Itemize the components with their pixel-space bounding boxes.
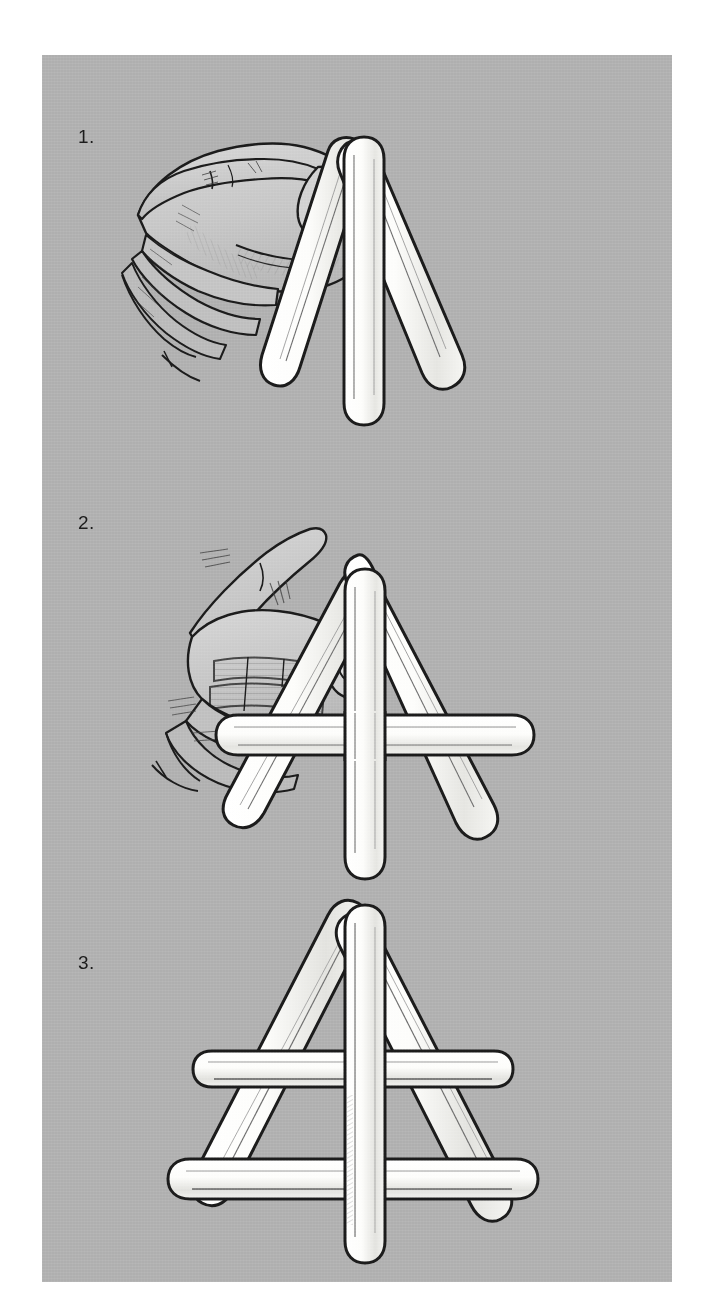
panel-step-1: 1.: [42, 55, 672, 465]
panel-2-artwork: [42, 465, 672, 895]
center-stick: [344, 137, 384, 425]
craft-sticks-group: [168, 900, 538, 1263]
panel-step-2: 2.: [42, 465, 672, 895]
center-stick-overlap: [345, 711, 385, 761]
panel-step-3: 3.: [42, 895, 672, 1282]
page-root: 1.: [0, 0, 716, 1315]
panel-3-artwork: [42, 895, 672, 1282]
panel-1-artwork: [42, 55, 672, 465]
center-stick: [345, 905, 385, 1263]
illustration-plate: 1.: [42, 55, 672, 1282]
